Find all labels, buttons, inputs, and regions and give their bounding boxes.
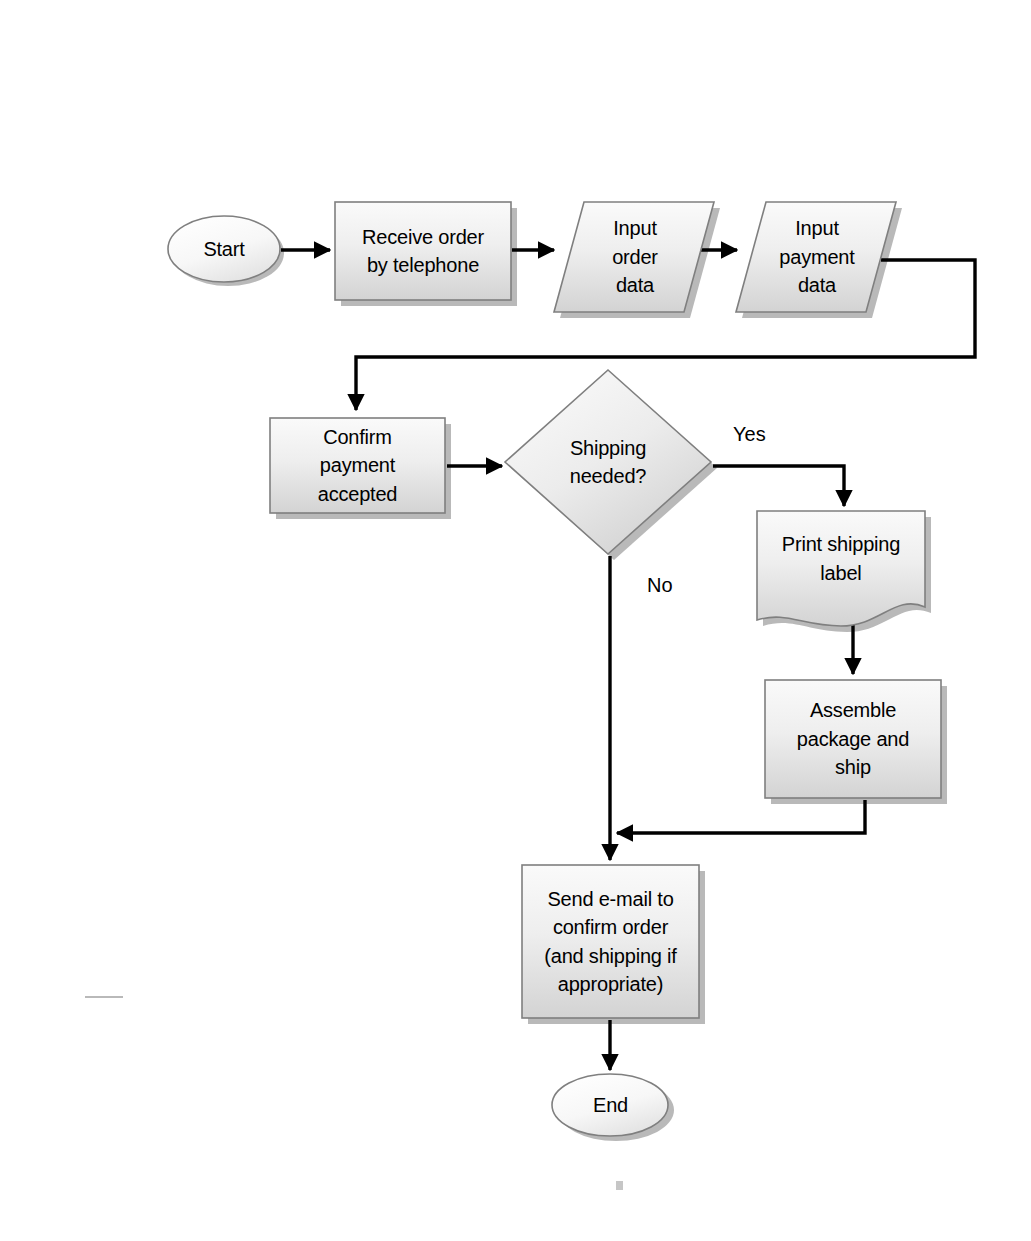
flowchart-canvas: Print shipping label --> Send e-mail (lo… [0, 0, 1031, 1241]
node-end[interactable] [552, 1074, 668, 1136]
scan-artifact-left [85, 996, 123, 998]
edge-decision-yes-to-print-label [713, 466, 844, 506]
edge-assemble-to-send-email [617, 800, 865, 833]
node-shipping-needed[interactable] [505, 370, 711, 554]
flowchart-graphics: Print shipping label --> Send e-mail (lo… [0, 0, 1031, 1241]
edge-label-no: No [647, 575, 673, 595]
node-start[interactable] [168, 216, 280, 282]
node-receive-order[interactable] [335, 202, 511, 300]
edge-label-yes: Yes [733, 424, 766, 444]
scan-artifact-bottom [616, 1181, 623, 1190]
node-send-email[interactable] [522, 865, 699, 1018]
node-confirm-payment[interactable] [270, 418, 445, 513]
node-assemble-package-ship[interactable] [765, 680, 941, 798]
shape-bodies [168, 202, 941, 1136]
